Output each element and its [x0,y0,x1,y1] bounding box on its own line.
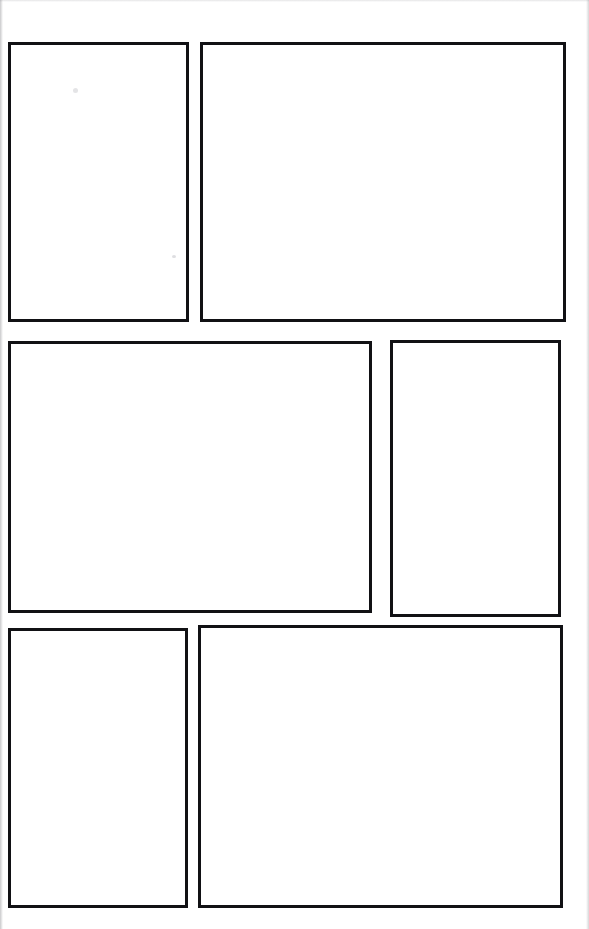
scan-edge-left [0,0,3,929]
panel-row2-right[interactable] [390,340,561,617]
scan-edge-top [0,0,589,2]
panel-row2-left[interactable] [8,341,372,613]
panel-row1-left[interactable] [8,42,189,322]
page-canvas [0,0,589,929]
panel-row1-right[interactable] [200,42,566,322]
panel-row3-left[interactable] [8,628,188,908]
panel-row3-right[interactable] [198,625,563,908]
